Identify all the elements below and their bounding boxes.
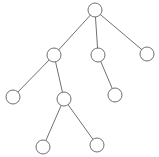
edge-a-d (13, 55, 54, 97)
edge-root-a (54, 10, 95, 55)
node-b (91, 48, 105, 62)
node-root (88, 3, 102, 17)
node-g (36, 140, 50, 154)
node-f (108, 88, 122, 102)
edge-e-h (64, 99, 97, 145)
node-a (47, 48, 61, 62)
tree-edges (13, 10, 147, 147)
node-c (140, 47, 154, 61)
tree-nodes (6, 3, 154, 154)
tree-diagram (0, 0, 159, 157)
edge-e-g (43, 99, 64, 147)
edge-root-c (95, 10, 147, 54)
node-e (57, 92, 71, 106)
node-h (90, 138, 104, 152)
node-d (6, 90, 20, 104)
